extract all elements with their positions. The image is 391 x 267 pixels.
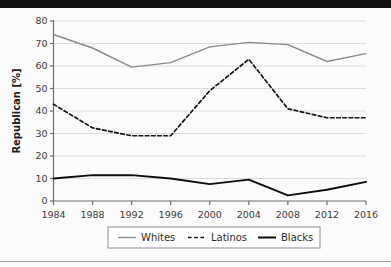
y-axis-label-text: Republican [%] (11, 68, 22, 153)
data-series-group (54, 35, 367, 196)
grid-lines (54, 21, 367, 179)
y-axis-ticks: 01020304050607080 (35, 15, 53, 206)
chart-legend: WhitesLatinosBlacks (108, 227, 320, 248)
y-tick-label-30: 30 (35, 128, 47, 139)
x-tick-label-2004: 2004 (237, 209, 261, 220)
x-tick-label-1988: 1988 (80, 209, 104, 220)
y-tick-label-60: 60 (35, 60, 47, 71)
x-axis-ticks: 198419881992199620002004200820122016 (41, 201, 378, 220)
x-tick-label-1996: 1996 (159, 209, 183, 220)
top-dark-band (0, 0, 391, 8)
x-tick-label-2012: 2012 (315, 209, 339, 220)
bottom-rule (0, 261, 391, 262)
y-axis-label: Republican [%] (11, 68, 22, 153)
series-line-latinos (54, 59, 367, 136)
legend-label-latinos: Latinos (211, 232, 247, 243)
y-tick-label-10: 10 (35, 173, 47, 184)
x-tick-label-1992: 1992 (120, 209, 144, 220)
legend-label-whites: Whites (141, 232, 175, 243)
legend-label-blacks: Blacks (281, 232, 313, 243)
x-tick-label-2000: 2000 (198, 209, 222, 220)
y-tick-label-40: 40 (35, 105, 47, 116)
y-tick-label-0: 0 (41, 195, 47, 206)
x-tick-label-2008: 2008 (276, 209, 300, 220)
x-tick-label-1984: 1984 (41, 209, 65, 220)
y-tick-label-80: 80 (35, 15, 47, 26)
y-tick-label-70: 70 (35, 38, 47, 49)
series-line-whites (54, 35, 367, 68)
plot-wrapper: 198419881992199620002004200820122016 010… (0, 8, 391, 261)
y-tick-label-20: 20 (35, 150, 47, 161)
republican-vote-share-line-chart: 198419881992199620002004200820122016 010… (0, 8, 391, 261)
chart-figure: 198419881992199620002004200820122016 010… (0, 0, 391, 267)
y-tick-label-50: 50 (35, 83, 47, 94)
x-tick-label-2016: 2016 (354, 209, 378, 220)
